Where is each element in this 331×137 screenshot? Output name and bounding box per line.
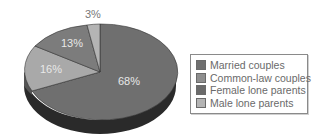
swatch-common-law — [196, 73, 206, 83]
swatch-female — [196, 85, 206, 95]
label-male: 3% — [85, 8, 101, 20]
legend: Married couples Common-law couples Femal… — [190, 54, 308, 114]
legend-item-female: Female lone parents — [196, 84, 307, 97]
legend-label: Male lone parents — [210, 97, 293, 109]
swatch-married — [196, 60, 206, 70]
legend-label: Common-law couples — [210, 72, 311, 84]
legend-label: Female lone parents — [210, 84, 306, 96]
legend-item-married: Married couples — [196, 59, 307, 72]
label-common-law: 16% — [40, 63, 62, 75]
label-female: 13% — [61, 37, 83, 49]
pie-chart: 68% 16% 13% 3% — [0, 0, 190, 137]
swatch-male — [196, 98, 206, 108]
label-married: 68% — [118, 75, 140, 87]
legend-label: Married couples — [210, 59, 285, 71]
legend-item-male: Male lone parents — [196, 97, 307, 110]
legend-item-common-law: Common-law couples — [196, 72, 307, 85]
